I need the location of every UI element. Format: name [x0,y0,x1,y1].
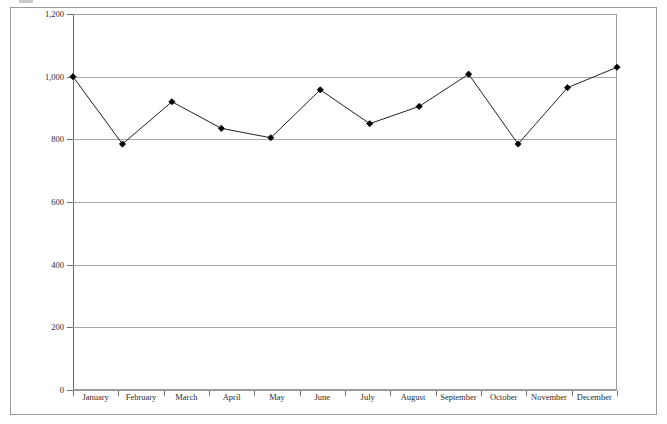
data-point-marker [416,103,422,109]
x-axis-tick-label: August [401,393,426,402]
data-point-marker [466,71,472,77]
y-axis-tick-label: 600 [51,198,64,207]
y-axis-tick-label: 800 [51,135,64,144]
data-point-marker [218,125,224,131]
x-axis-tick-label: February [126,393,157,402]
series-polyline [73,67,617,144]
x-axis-tick-label: September [440,393,476,402]
x-axis-tick [617,391,618,396]
line-chart-figure: 02004006008001,0001,200 JanuaryFebruaryM… [0,0,667,424]
x-axis-tick-label: October [490,393,517,402]
y-axis-tick-labels: 02004006008001,0001,200 [0,14,64,390]
y-axis-tick-label: 200 [51,323,64,332]
series-markers [70,64,620,147]
data-point-marker [367,121,373,127]
y-axis-tick-label: 1,200 [45,10,64,19]
y-axis-tick-label: 0 [60,386,64,395]
data-series-line [73,14,617,390]
x-axis-tick-label: May [269,393,285,402]
x-axis-tick-label: November [531,393,567,402]
x-axis-tick-label: July [361,393,375,402]
x-axis-tick-labels: JanuaryFebruaryMarchAprilMayJuneJulyAugu… [73,393,617,409]
x-axis-tick-label: June [315,393,331,402]
x-axis-tick-label: March [175,393,197,402]
clipped-caption-remnant [19,0,33,3]
y-axis-tick-label: 400 [51,261,64,270]
x-axis-tick-label: December [577,393,612,402]
x-axis-tick-label: January [82,393,108,402]
plot-area [73,14,617,390]
x-axis-tick-label: April [223,393,241,402]
y-axis-tick-label: 1,000 [45,73,64,82]
